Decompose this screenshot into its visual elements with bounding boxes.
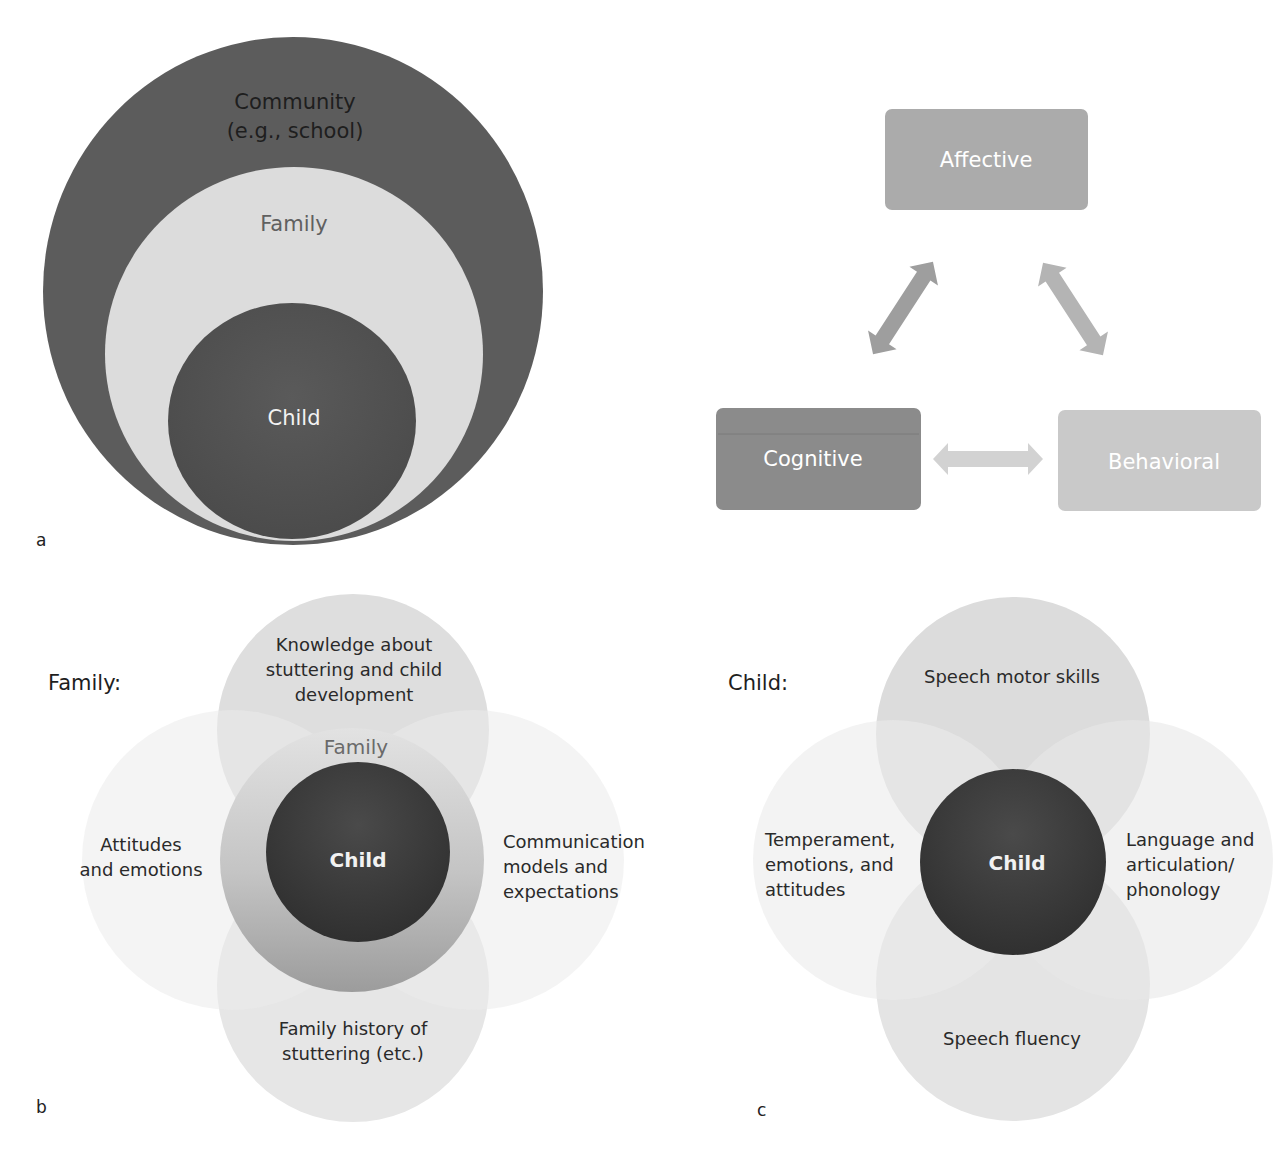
panel-a-nested-circles: Community (e.g., school) Family Child — [43, 37, 543, 545]
community-label-line2: (e.g., school) — [227, 119, 364, 143]
behavioral-label: Behavioral — [1108, 450, 1220, 474]
figure-canvas: Community (e.g., school) Family Child Af… — [0, 0, 1285, 1151]
family-label: Family — [260, 212, 328, 236]
panel-c-title: Child: — [728, 671, 788, 695]
panel-letter-c: c — [757, 1100, 766, 1120]
bottom-label-line1: Family history of — [279, 1018, 428, 1039]
cognitive-label: Cognitive — [763, 447, 862, 471]
right-label-line2: models and — [503, 856, 608, 877]
left-label-line3: attitudes — [765, 879, 846, 900]
child-label: Child — [330, 848, 387, 872]
panel-triad: Affective Cognitive Behavioral — [716, 109, 1261, 511]
panel-b-family-diagram: Family: Knowledge about stuttering and c… — [48, 594, 645, 1122]
bottom-label: Speech fluency — [943, 1028, 1081, 1049]
left-label-line2: and emotions — [79, 859, 202, 880]
double-arrow-cognitive-behavioral-icon — [933, 443, 1043, 475]
left-label-line1: Attitudes — [100, 834, 181, 855]
right-label-line2: articulation/ — [1126, 854, 1235, 875]
right-label-line3: phonology — [1126, 879, 1221, 900]
top-label-line1: Knowledge about — [276, 634, 433, 655]
left-label-line1: Temperament, — [764, 829, 895, 850]
affective-label: Affective — [940, 148, 1033, 172]
panel-letter-a: a — [36, 530, 46, 550]
top-label: Speech motor skills — [924, 666, 1100, 687]
bottom-label-line2: stuttering (etc.) — [282, 1043, 424, 1064]
panel-c-child-diagram: Child: Speech motor skills Temperament, … — [728, 597, 1273, 1121]
ring-label: Family — [324, 735, 389, 759]
figure: Community (e.g., school) Family Child Af… — [0, 0, 1285, 1151]
left-label-line2: emotions, and — [765, 854, 894, 875]
community-label-line1: Community — [234, 90, 356, 114]
panel-letter-b: b — [36, 1097, 47, 1117]
double-arrow-cognitive-affective-icon — [859, 253, 947, 364]
right-label-line1: Communication — [503, 831, 645, 852]
right-label-line3: expectations — [503, 881, 619, 902]
double-arrow-affective-behavioral-icon — [1029, 254, 1117, 365]
panel-b-title: Family: — [48, 671, 121, 695]
top-label-line2: stuttering and child — [266, 659, 442, 680]
child-label: Child — [989, 851, 1046, 875]
top-label-line3: development — [295, 684, 414, 705]
child-label: Child — [268, 406, 321, 430]
right-label-line1: Language and — [1126, 829, 1254, 850]
